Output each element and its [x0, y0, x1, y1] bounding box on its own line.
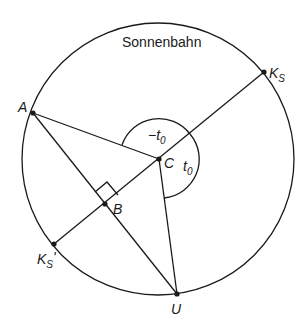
point-b [102, 201, 107, 206]
label-t0: t0 [183, 158, 193, 177]
label-a: A [17, 99, 27, 115]
label-b: B [113, 201, 122, 217]
label-ks: KS [269, 65, 285, 84]
point-u [174, 291, 179, 296]
sonnenbahn-diagram: Sonnenbahn A KS KS' C B U −t0 t0 [0, 0, 307, 324]
right-angle-marker [95, 182, 118, 195]
point-ks [261, 69, 266, 74]
label-ks-prime: KS' [37, 249, 57, 270]
point-c [156, 156, 161, 161]
sun-path-label: Sonnenbahn [122, 34, 201, 50]
label-neg-t0: −t0 [148, 127, 166, 146]
label-u: U [171, 301, 182, 317]
point-ks-prime [51, 241, 56, 246]
point-a [30, 110, 35, 115]
label-c: C [164, 155, 175, 171]
